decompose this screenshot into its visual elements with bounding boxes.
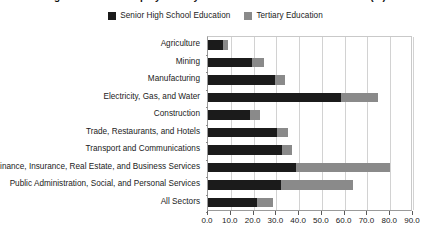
plot-area [207,36,412,211]
bar-segment[interactable] [208,93,341,103]
stacked-bar[interactable] [208,40,228,50]
bar-row[interactable] [208,125,411,141]
x-axis-tick-label: 40.0 [290,216,306,225]
bar-segment[interactable] [208,40,223,50]
bar-segment[interactable] [282,145,292,155]
bar-row[interactable] [208,177,411,193]
stacked-bar[interactable] [208,180,353,190]
bar-segment[interactable] [281,180,353,190]
page-title: Figure: Share of Employment by Education… [0,0,431,2]
bar-segment[interactable] [208,75,275,85]
stacked-bar[interactable] [208,58,264,68]
y-axis-tick [206,142,208,143]
bar-row[interactable] [208,72,411,88]
y-axis-tick [206,160,208,161]
y-axis-tick [206,177,208,178]
x-axis-tick [230,211,231,215]
bar-segment[interactable] [250,110,260,120]
y-axis-tick [206,195,208,196]
category-label: All Sectors [161,194,200,210]
stacked-bar[interactable] [208,110,260,120]
bar-segment[interactable] [277,128,287,138]
x-axis-tick [389,211,390,215]
category-label: Finance, Insurance, Real Estate, and Bus… [0,159,200,175]
x-axis-tick-label: 20.0 [245,216,261,225]
x-axis-tick [344,211,345,215]
stacked-bar[interactable] [208,93,378,103]
bar-row[interactable] [208,90,411,106]
stacked-bar[interactable] [208,128,288,138]
stacked-bar[interactable] [208,163,390,173]
category-label: Manufacturing [148,71,200,87]
bar-segment[interactable] [208,180,281,190]
x-axis-tick-label: 10.0 [222,216,238,225]
chart-title-strip: Figure: Share of Employment by Education… [0,0,431,9]
y-axis-tick [206,72,208,73]
legend-swatch-icon [108,12,116,20]
x-axis-tick-label: 90.0 [404,216,420,225]
bar-row[interactable] [208,55,411,71]
category-label: Construction [154,106,200,122]
category-label: Electricity, Gas, and Water [103,89,200,105]
bar-segment[interactable] [208,58,252,68]
category-label: Agriculture [161,36,200,52]
category-label: Trade, Restaurants, and Hotels [86,124,200,140]
x-axis-tick-label: 80.0 [381,216,397,225]
bar-segment[interactable] [252,58,263,68]
x-axis-tick [412,211,413,215]
bar-segment[interactable] [208,198,257,208]
y-axis-tick [206,107,208,108]
bar-segment[interactable] [223,40,229,50]
chart-legend: Senior High School Education Tertiary Ed… [0,11,431,20]
bar-row[interactable] [208,160,411,176]
bar-row[interactable] [208,195,411,211]
bar-row[interactable] [208,37,411,53]
x-axis-tick [275,211,276,215]
bar-segment[interactable] [257,198,273,208]
x-axis-tick-label: 50.0 [313,216,329,225]
bar-row[interactable] [208,142,411,158]
bar-segment[interactable] [208,145,282,155]
bar-segment[interactable] [208,128,277,138]
stacked-bar[interactable] [208,198,273,208]
legend-swatch-icon [244,12,252,20]
x-axis-tick [298,211,299,215]
stacked-bar[interactable] [208,145,292,155]
gridline [413,37,414,210]
bar-segment[interactable] [275,75,285,85]
bar-segment[interactable] [296,163,391,173]
x-axis-tick [207,211,208,215]
category-label: Public Administration, Social, and Perso… [10,176,200,192]
bar-rows [208,37,411,210]
legend-item-tertiary[interactable]: Tertiary Education [244,11,322,20]
legend-label: Senior High School Education [120,11,230,20]
stacked-bar[interactable] [208,75,285,85]
x-axis-tick [321,211,322,215]
bar-segment[interactable] [208,163,296,173]
y-axis-tick [206,125,208,126]
x-axis-tick-label: 30.0 [268,216,284,225]
bar-segment[interactable] [341,93,377,103]
x-axis-tick [253,211,254,215]
x-axis-tick-label: 0.0 [201,216,212,225]
x-axis-tick-label: 70.0 [359,216,375,225]
category-label: Transport and Communications [86,141,200,157]
x-axis-tick [366,211,367,215]
y-axis-tick [206,90,208,91]
legend-label: Tertiary Education [256,11,322,20]
category-axis-labels: AgricultureMiningManufacturingElectricit… [0,36,204,211]
bar-segment[interactable] [208,110,250,120]
x-axis-labels: 0.010.020.030.040.050.060.070.080.090.0 [0,216,431,230]
y-axis-tick [206,55,208,56]
x-axis-tick-label: 60.0 [336,216,352,225]
legend-item-senior-high[interactable]: Senior High School Education [108,11,230,20]
bar-chart: AgricultureMiningManufacturingElectricit… [0,30,431,239]
category-label: Mining [176,54,200,70]
bar-row[interactable] [208,107,411,123]
